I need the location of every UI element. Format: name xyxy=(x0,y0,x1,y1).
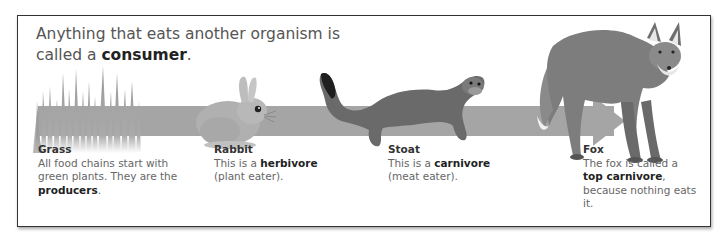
caption-text: . xyxy=(98,184,101,196)
caption-stoat: Stoat This is a carnivore (meat eater). xyxy=(388,143,528,184)
stoat-icon xyxy=(313,68,498,153)
rabbit-icon xyxy=(190,73,280,153)
caption-fox: Fox The fox is called a top carnivore, b… xyxy=(583,143,698,211)
title-line-2-suffix: . xyxy=(187,46,192,64)
keyword-producers: producers xyxy=(38,184,98,196)
keyword-herbivore: herbivore xyxy=(260,157,317,169)
caption-title-stoat: Stoat xyxy=(388,143,528,157)
caption-text: The fox is called a xyxy=(583,157,678,169)
caption-rabbit: Rabbit This is a herbivore (plant eater)… xyxy=(214,143,354,184)
caption-text: All food chains start with green plants.… xyxy=(38,157,177,183)
grass-icon xyxy=(33,61,143,153)
caption-title-grass: Grass xyxy=(38,143,178,157)
title-line-1: Anything that eats another organism is xyxy=(36,25,340,43)
food-chain-panel: Anything that eats another organism is c… xyxy=(17,15,711,227)
diagram-title: Anything that eats another organism is c… xyxy=(36,24,340,66)
caption-grass: Grass All food chains start with green p… xyxy=(38,143,178,197)
caption-text: (plant eater). xyxy=(214,170,283,182)
keyword-carnivore: carnivore xyxy=(434,157,490,169)
caption-text: (meat eater). xyxy=(388,170,458,182)
keyword-top-carnivore: top carnivore xyxy=(583,170,662,182)
caption-text: This is a xyxy=(214,157,260,169)
caption-title-fox: Fox xyxy=(583,143,698,157)
caption-text: This is a xyxy=(388,157,434,169)
caption-title-rabbit: Rabbit xyxy=(214,143,354,157)
